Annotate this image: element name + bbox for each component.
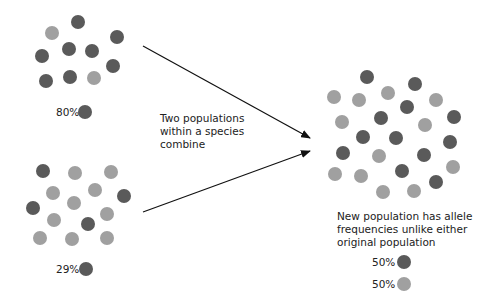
middle-caption-line-1: Two populations bbox=[160, 112, 244, 125]
arrow-bottom bbox=[143, 151, 310, 212]
dark-allele-dot-icon bbox=[374, 111, 388, 125]
dark-allele-dot-icon bbox=[408, 77, 422, 91]
population-b-legend-dot-icon bbox=[79, 262, 93, 276]
light-allele-dot-icon bbox=[446, 160, 460, 174]
light-allele-dot-icon bbox=[327, 90, 341, 104]
dark-allele-dot-icon bbox=[62, 42, 76, 56]
dark-allele-dot-icon bbox=[35, 49, 49, 63]
population-new-legend-dark-dot-icon bbox=[397, 255, 411, 269]
dark-allele-dot-icon bbox=[336, 146, 350, 160]
dark-allele-dot-icon bbox=[81, 217, 95, 231]
light-allele-dot-icon bbox=[87, 71, 101, 85]
dark-allele-dot-icon bbox=[356, 130, 370, 144]
dark-allele-dot-icon bbox=[360, 70, 374, 84]
dark-allele-dot-icon bbox=[447, 110, 461, 124]
light-allele-dot-icon bbox=[100, 207, 114, 221]
light-allele-dot-icon bbox=[407, 184, 421, 198]
light-allele-dot-icon bbox=[418, 118, 432, 132]
light-allele-dot-icon bbox=[376, 185, 390, 199]
population-a-legend-dot-icon bbox=[78, 105, 92, 119]
result-caption: New population has allele frequencies un… bbox=[337, 210, 472, 249]
result-caption-line-1: New population has allele bbox=[337, 210, 472, 223]
light-allele-dot-icon bbox=[88, 183, 102, 197]
dark-allele-dot-icon bbox=[395, 164, 409, 178]
light-allele-dot-icon bbox=[372, 149, 386, 163]
dark-allele-dot-icon bbox=[389, 131, 403, 145]
dark-allele-dot-icon bbox=[71, 15, 85, 29]
light-allele-dot-icon bbox=[104, 165, 118, 179]
light-allele-dot-icon bbox=[47, 213, 61, 227]
light-allele-dot-icon bbox=[68, 166, 82, 180]
light-allele-dot-icon bbox=[67, 196, 81, 210]
light-allele-dot-icon bbox=[45, 26, 59, 40]
middle-caption-line-2: within a species bbox=[160, 125, 244, 138]
light-allele-dot-icon bbox=[33, 231, 47, 245]
light-allele-dot-icon bbox=[381, 86, 395, 100]
dark-allele-dot-icon bbox=[36, 164, 50, 178]
light-allele-dot-icon bbox=[328, 167, 342, 181]
population-new-legend-light-dot-icon bbox=[397, 277, 411, 291]
gene-flow-diagram: 80% 29% Two populations within a species… bbox=[0, 0, 483, 307]
dark-allele-dot-icon bbox=[429, 175, 443, 189]
population-new-percent-dark: 50% bbox=[372, 256, 395, 269]
light-allele-dot-icon bbox=[429, 93, 443, 107]
dark-allele-dot-icon bbox=[443, 135, 457, 149]
light-allele-dot-icon bbox=[46, 186, 60, 200]
light-allele-dot-icon bbox=[352, 93, 366, 107]
light-allele-dot-icon bbox=[335, 115, 349, 129]
result-caption-line-3: original population bbox=[337, 236, 472, 249]
light-allele-dot-icon bbox=[65, 232, 79, 246]
dark-allele-dot-icon bbox=[110, 30, 124, 44]
population-a-percent: 80% bbox=[56, 106, 79, 119]
dark-allele-dot-icon bbox=[63, 70, 77, 84]
light-allele-dot-icon bbox=[100, 231, 114, 245]
middle-caption-line-3: combine bbox=[160, 138, 244, 151]
dark-allele-dot-icon bbox=[106, 59, 120, 73]
dark-allele-dot-icon bbox=[85, 44, 99, 58]
dark-allele-dot-icon bbox=[400, 100, 414, 114]
population-b-percent: 29% bbox=[56, 263, 79, 276]
dark-allele-dot-icon bbox=[117, 189, 131, 203]
population-new-percent-light: 50% bbox=[372, 278, 395, 291]
result-caption-line-2: frequencies unlike either bbox=[337, 223, 472, 236]
dark-allele-dot-icon bbox=[417, 148, 431, 162]
light-allele-dot-icon bbox=[354, 169, 368, 183]
middle-caption: Two populations within a species combine bbox=[160, 112, 244, 151]
dark-allele-dot-icon bbox=[39, 74, 53, 88]
dark-allele-dot-icon bbox=[26, 201, 40, 215]
